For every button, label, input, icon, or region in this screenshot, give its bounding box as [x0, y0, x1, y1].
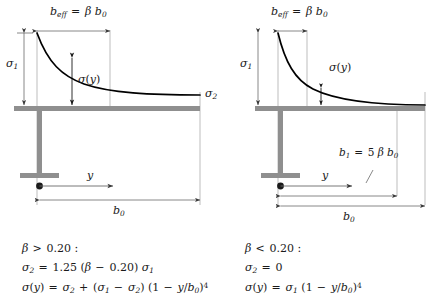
beam-bottom-flange [20, 173, 59, 178]
equation-sigma-profile-right: σ(y) = σ1 (1 − y/b0)4 [245, 282, 362, 293]
label-b-eff: beff = β b0 [50, 6, 107, 17]
diagram-panel-right: beff = β b0 σ1 σ(y) y b1 = 5 β b0 b0 β <… [221, 0, 442, 303]
beam-top-flange [14, 106, 200, 111]
figure-root: beff = β b0 σ1 σ2 σ(y) y b0 β > 0.20 : σ… [0, 0, 442, 303]
equation-sigma2-right: σ2 = 0 [245, 262, 283, 273]
stress-distribution-curve [37, 33, 200, 95]
left-diagram-graphics [0, 0, 221, 303]
label-y-axis: y [322, 170, 328, 181]
leader-line-b1 [366, 170, 373, 183]
label-b0: b0 [113, 205, 125, 216]
beam-top-flange [255, 106, 425, 111]
label-sigma-of-y: σ(y) [329, 62, 351, 73]
label-y-axis: y [87, 170, 93, 181]
right-diagram-graphics [221, 0, 442, 303]
label-sigma-2: σ2 [205, 88, 217, 99]
label-sigma-1: σ1 [6, 58, 18, 69]
equation-condition-right: β < 0.20 : [245, 243, 301, 254]
beam-web [278, 111, 283, 173]
diagram-panel-left: beff = β b0 σ1 σ2 σ(y) y b0 β > 0.20 : σ… [0, 0, 221, 303]
equation-sigma2-left: σ2 = 1.25 (β − 0.20) σ1 [22, 262, 154, 273]
beam-web [37, 111, 42, 173]
label-b0: b0 [343, 211, 355, 222]
equation-sigma-profile-left: σ(y) = σ2 + (σ1 − σ2) (1 − y/b0)4 [22, 282, 208, 293]
equation-condition-left: β > 0.20 : [22, 243, 78, 254]
label-sigma-of-y: σ(y) [78, 74, 100, 85]
stress-distribution-curve [278, 33, 425, 105]
label-sigma-1: σ1 [240, 58, 252, 69]
beam-bottom-flange [261, 173, 300, 178]
label-b-eff: beff = β b0 [271, 6, 328, 17]
label-b1: b1 = 5 β b0 [339, 147, 398, 158]
